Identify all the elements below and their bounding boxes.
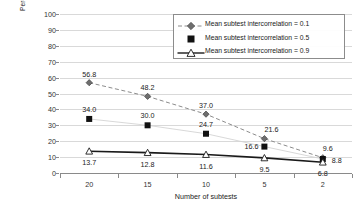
gridline (60, 141, 352, 142)
gridline (60, 62, 352, 63)
y-tick-label: 40 (32, 105, 56, 114)
y-tick-label: 80 (32, 41, 56, 50)
x-tick-mark (177, 174, 178, 178)
y-tick-label: 0 (32, 169, 56, 178)
data-label: 56.8 (82, 69, 96, 78)
y-tick-label: 30 (32, 121, 56, 130)
data-label: 9.5 (259, 164, 269, 173)
y-tick-label: 90 (32, 25, 56, 34)
x-tick-mark (294, 174, 295, 178)
y-tick-label: 60 (32, 73, 56, 82)
y-tick-label: 10 (32, 153, 56, 162)
data-label: 24.7 (199, 119, 213, 128)
data-label: 48.2 (141, 83, 155, 92)
data-label: 16.6 (244, 141, 258, 150)
y-tick-mark (56, 109, 59, 110)
x-tick-mark (118, 174, 119, 178)
x-tick-label: 20 (69, 180, 109, 189)
y-tick-label: 70 (32, 57, 56, 66)
data-label: 12.8 (141, 159, 155, 168)
y-tick-mark (56, 141, 59, 142)
x-tick-label: 2 (303, 180, 343, 189)
legend-key-diamond-dashed-icon (177, 18, 205, 30)
data-label: 21.6 (264, 124, 278, 133)
gridline (60, 157, 352, 158)
x-tick-label: 10 (186, 180, 226, 189)
legend-label-1: Mean subtest intercorrelation = 0.5 (205, 34, 309, 41)
legend-item-2[interactable]: Mean subtest intercorrelation = 0.9 (174, 44, 344, 58)
x-tick-mark (60, 174, 61, 178)
legend: Mean subtest intercorrelation = 0.1 Mean… (173, 14, 345, 59)
data-label: 9.6 (323, 143, 333, 152)
y-tick-mark (56, 14, 59, 15)
x-tick-label: 5 (244, 180, 284, 189)
x-axis-line (60, 173, 352, 174)
data-label: 30.0 (141, 111, 155, 120)
y-tick-mark (56, 30, 59, 31)
x-axis-title: Number of subtests (60, 192, 352, 201)
legend-item-1[interactable]: Mean subtest intercorrelation = 0.5 (174, 31, 344, 45)
data-label: 37.0 (199, 101, 213, 110)
legend-key-square-icon (177, 31, 205, 43)
y-tick-mark (56, 62, 59, 63)
legend-item-0[interactable]: Mean subtest intercorrelation = 0.1 (174, 17, 344, 31)
y-tick-mark (56, 78, 59, 79)
y-tick-label: 50 (32, 89, 56, 98)
data-label: 8.8 (332, 156, 342, 165)
y-tick-mark (56, 94, 59, 95)
y-tick-mark (56, 173, 59, 174)
y-tick-label: 100 (32, 10, 56, 19)
x-tick-label: 15 (128, 180, 168, 189)
data-label: 34.0 (82, 104, 96, 113)
legend-label-0: Mean subtest intercorrelation = 0.1 (205, 20, 309, 27)
data-label: 13.7 (82, 158, 96, 167)
y-axis-title-line1: Percent of sample with one or more (19, 0, 28, 11)
legend-key-triangle-solid-icon (177, 45, 205, 57)
x-tick-mark (235, 174, 236, 178)
y-tick-mark (56, 125, 59, 126)
gridline (60, 78, 352, 79)
gridline (60, 94, 352, 95)
y-tick-mark (56, 157, 59, 158)
legend-label-2: Mean subtest intercorrelation = 0.9 (205, 47, 309, 54)
y-tick-mark (56, 46, 59, 47)
y-tick-label: 20 (32, 137, 56, 146)
chart-container: Percent of sample with one or more low s… (0, 0, 364, 211)
data-label: 6.8 (318, 169, 328, 178)
y-axis-ticks: 0102030405060708090100 (30, 14, 56, 173)
data-label: 11.6 (199, 161, 212, 170)
x-tick-mark (352, 174, 353, 178)
